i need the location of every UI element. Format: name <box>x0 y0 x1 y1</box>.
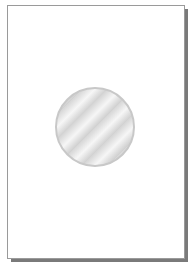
page-thumbnail[interactable] <box>7 5 185 259</box>
striped-circle-graphic <box>55 87 135 167</box>
